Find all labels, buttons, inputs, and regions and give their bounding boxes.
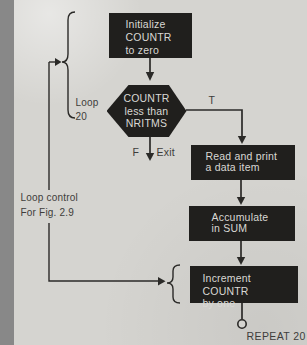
hexagon-text-line: less than (107, 105, 187, 118)
increment-box: Increment COUNTR by one (190, 266, 298, 303)
init-box: Initialize COUNTR to zero (109, 13, 192, 58)
connector-circle (237, 320, 245, 328)
annotation-line-lower (49, 223, 158, 281)
connector-true-branch (186, 110, 242, 136)
loop-control-label-line2: For Fig. 2.9 (21, 207, 75, 218)
box-text-line: to zero (126, 44, 192, 57)
loop-label: Loop (76, 97, 99, 108)
arrowhead-false-exit (145, 153, 153, 161)
arrowhead-into-read (237, 136, 245, 144)
arrowhead-into-accumulate (236, 197, 244, 205)
exit-label: Exit (157, 147, 175, 158)
box-text-line: COUNTR (126, 31, 192, 44)
group-brace-increment (167, 265, 180, 303)
arrowhead-into-increment-brace (158, 277, 166, 285)
flowchart-diagram: Initialize COUNTR to zero COUNTR less th… (14, 0, 307, 345)
accumulate-box: Accumulate in SUM (189, 206, 295, 241)
box-text-line: by one (203, 297, 298, 310)
repeat-label: REPEAT 20 (247, 331, 306, 342)
loop-count-label: 20 (76, 111, 88, 122)
false-branch-label: F (133, 147, 140, 158)
true-branch-label: T (209, 95, 216, 106)
arrowhead-into-top-brace (55, 58, 62, 66)
box-text-line: Increment COUNTR (203, 272, 298, 297)
loop-control-label-line1: Loop control (21, 192, 78, 203)
read-box: Read and print a data item (191, 145, 295, 180)
arrowhead-into-test (145, 72, 153, 81)
group-brace-loop-header (62, 12, 75, 118)
box-text-line: in SUM (212, 223, 295, 235)
box-text-line: Initialize (126, 18, 192, 31)
arrowhead-into-increment (236, 257, 244, 265)
box-text-line: a data item (206, 162, 295, 174)
